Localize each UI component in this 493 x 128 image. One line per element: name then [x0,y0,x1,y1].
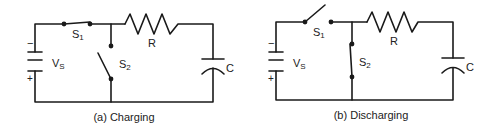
switch-s2-open-icon [98,44,113,82]
switch-s1-open-icon [303,5,334,24]
wire-left-top [35,24,64,52]
wire-left-bottom [35,68,213,102]
rc-circuit-figure: − + VS S1 S2 R C (a) Charging [0,0,493,128]
capacitor-label: C [226,62,234,74]
source-label: VS [293,57,306,71]
switch-s1-label: S1 [72,28,84,42]
circuit-charging: − + VS S1 S2 R C (a) Charging [27,14,234,123]
wire-left-top [276,22,305,52]
battery-minus-sign: − [27,37,33,49]
battery-plus-sign: + [268,73,274,84]
battery-icon [269,52,283,71]
circuit-discharging: − + VS S1 S2 R C (b) Discharging [268,5,474,121]
resistor-icon [367,12,453,58]
caption-charging: (a) Charging [93,111,154,123]
battery-plus-sign: + [27,73,33,84]
battery-icon [28,52,42,71]
caption-discharging: (b) Discharging [334,109,409,121]
battery-minus-sign: − [268,37,274,49]
resistor-label: R [148,37,156,49]
resistor-label: R [390,35,398,47]
switch-s2-closed-icon [350,42,355,80]
switch-s1-label: S1 [313,26,325,40]
switch-s2-label: S2 [119,58,131,72]
switch-s2-label: S2 [359,56,371,70]
capacitor-label: C [466,61,474,73]
resistor-icon [125,14,213,59]
wire-left-bottom [276,68,453,100]
source-label: VS [52,57,65,71]
switch-s1-closed-icon [62,22,93,27]
